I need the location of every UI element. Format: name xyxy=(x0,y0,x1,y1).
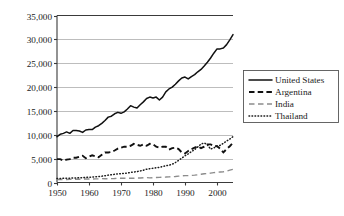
series-line-argentina xyxy=(57,143,233,161)
series-line-india xyxy=(57,169,233,179)
x-axis-tick-label: 2000 xyxy=(208,188,227,198)
x-axis-labels: 195019601970198019902000 xyxy=(48,188,227,198)
x-axis-tick-label: 1950 xyxy=(48,188,67,198)
y-axis-labels: 05,00010,00015,00020,00025,00030,00035,0… xyxy=(27,12,53,189)
legend-label-united-states: United States xyxy=(275,75,325,85)
y-axis-tick-label: 20,000 xyxy=(27,83,53,93)
y-axis-tick-label: 25,000 xyxy=(27,59,53,69)
y-axis-tick-marks xyxy=(54,17,218,186)
chart-container: 05,00010,00015,00020,00025,00030,00035,0… xyxy=(0,0,344,216)
series-line-thailand xyxy=(57,137,233,179)
x-axis-tick-label: 1970 xyxy=(112,188,131,198)
y-axis-tick-label: 5,000 xyxy=(31,155,52,165)
x-axis-tick-label: 1980 xyxy=(144,188,163,198)
y-axis-tick-label: 15,000 xyxy=(27,107,53,117)
legend-label-argentina: Argentina xyxy=(275,87,312,97)
series-line-united-states xyxy=(57,35,233,137)
legend-label-india: India xyxy=(275,99,294,109)
y-axis-tick-label: 30,000 xyxy=(27,35,53,45)
data-series-group xyxy=(57,35,233,180)
x-axis-tick-label: 1960 xyxy=(80,188,99,198)
x-axis-tick-label: 1990 xyxy=(176,188,195,198)
legend: United StatesArgentinaIndiaThailand xyxy=(244,71,339,123)
y-axis-tick-label: 10,000 xyxy=(27,131,53,141)
y-axis-tick-label: 35,000 xyxy=(27,12,53,22)
line-chart: 05,00010,00015,00020,00025,00030,00035,0… xyxy=(0,0,344,216)
legend-label-thailand: Thailand xyxy=(275,111,308,121)
